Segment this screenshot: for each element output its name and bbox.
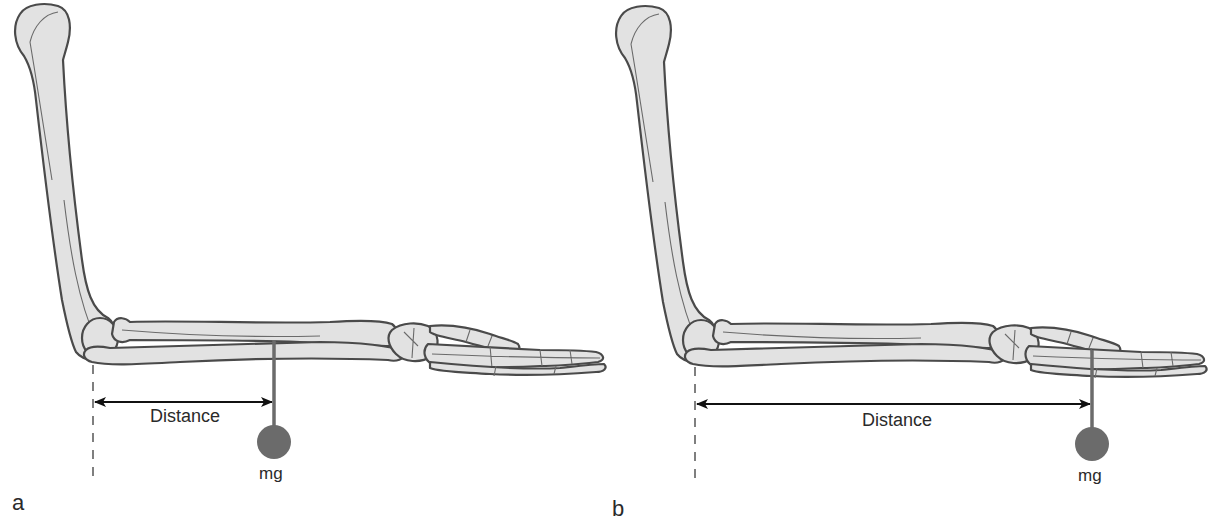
panel-label-a: a bbox=[12, 490, 24, 516]
weight-icon-b bbox=[1075, 427, 1109, 461]
weight-icon-a bbox=[257, 425, 291, 459]
distance-label-a: Distance bbox=[150, 406, 220, 427]
distance-label-b: Distance bbox=[862, 410, 932, 431]
mass-label-b: mg bbox=[1078, 466, 1102, 486]
arm-skeleton-b bbox=[616, 6, 1207, 378]
arm-skeleton-a bbox=[15, 4, 606, 376]
mass-label-a: mg bbox=[259, 464, 283, 484]
panel-a bbox=[15, 4, 606, 480]
panel-label-b: b bbox=[612, 496, 624, 522]
panel-b bbox=[616, 6, 1207, 480]
figure-canvas bbox=[0, 0, 1219, 525]
